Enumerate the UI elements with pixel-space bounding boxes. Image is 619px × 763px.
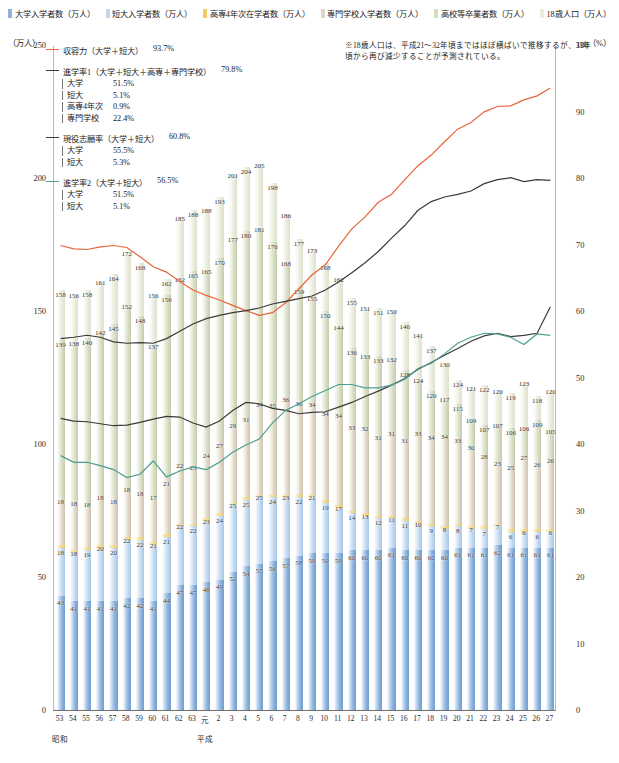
value-label-population: 137	[426, 347, 437, 355]
value-label-junior-college: 17	[335, 505, 342, 513]
value-label-vocational: 31	[375, 434, 382, 442]
value-label-highschool-grads: 148	[135, 317, 146, 325]
value-label-highschool-grads: 133	[373, 357, 384, 365]
value-label-vocational: 18	[110, 498, 117, 506]
key-sublist-current-applicant-rate: 大学55.5%短大5.3%	[46, 145, 296, 168]
x-label-27: 17	[413, 714, 421, 723]
x-label-22: 12	[347, 714, 355, 723]
right-tick-30: 30	[576, 507, 606, 516]
value-label-university: 56	[269, 565, 276, 573]
value-label-population: 119	[506, 394, 516, 402]
value-label-university: 61	[388, 551, 395, 559]
bar-column	[427, 45, 435, 710]
value-label-population: 155	[347, 299, 358, 307]
value-label-university: 62	[494, 549, 501, 557]
key-sub-label: 大学	[67, 189, 113, 201]
value-label-vocational: 25	[507, 464, 514, 472]
value-label-vocational: 33	[348, 424, 355, 432]
x-label-37: 27	[546, 714, 554, 723]
value-label-university: 61	[547, 551, 554, 559]
value-label-vocational: 36	[282, 396, 289, 404]
bar-segment-university	[242, 566, 250, 710]
x-label-9: 62	[175, 714, 183, 723]
value-label-highschool-grads: 159	[294, 288, 305, 296]
key-sublist-advancement-rate-2: 大学51.5%短大5.1%	[46, 189, 296, 212]
x-label-17: 7	[283, 714, 287, 723]
bar-column	[546, 45, 554, 710]
key-subentry: 専門学校22.4%	[46, 113, 296, 125]
legend-label-junior-college-entrants: 短大入学者数（万人）	[112, 7, 192, 19]
x-label-15: 5	[256, 714, 260, 723]
value-label-highschool-grads: 181	[254, 226, 265, 234]
right-tick-10: 10	[576, 640, 606, 649]
x-label-28: 18	[426, 714, 434, 723]
legend-label-university-entrants: 大学入学者数（万人）	[15, 7, 95, 19]
value-label-highschool-grads: 120	[426, 392, 437, 400]
value-label-population: 122	[479, 386, 490, 394]
value-label-junior-college: 7	[482, 530, 486, 538]
legend-swatch-junior-college-entrants	[106, 9, 110, 18]
key-subentry: 短大5.1%	[46, 201, 296, 213]
value-label-vocational: 26	[534, 461, 541, 469]
value-label-population: 168	[135, 264, 146, 272]
key-subentry: 大学51.5%	[46, 189, 296, 201]
x-label-36: 26	[532, 714, 540, 723]
x-label-35: 25	[519, 714, 527, 723]
bar-segment-university	[414, 550, 422, 710]
value-label-junior-college: 14	[348, 514, 355, 522]
right-tick-80: 80	[576, 174, 606, 183]
value-label-highschool-grads: 176	[267, 243, 278, 251]
key-sub-label: 短大	[67, 90, 113, 102]
value-label-university: 43	[57, 599, 64, 607]
value-label-population: 168	[320, 264, 331, 272]
legend-swatch-population-age-18	[540, 9, 544, 18]
x-label-26: 16	[400, 714, 408, 723]
value-label-university: 60	[441, 554, 448, 562]
value-label-university: 61	[467, 551, 474, 559]
bar-column	[493, 45, 501, 710]
value-label-university: 41	[97, 605, 104, 613]
bar-segment-university	[57, 596, 65, 710]
value-label-highschool-grads: 162	[175, 276, 186, 284]
value-label-junior-college: 7	[496, 523, 500, 531]
key-sub-label: 高専4年次	[67, 101, 113, 113]
x-label-1: 54	[69, 714, 77, 723]
value-label-population: 177	[294, 240, 305, 248]
bar-segment-university	[334, 553, 342, 710]
value-label-population: 173	[307, 247, 318, 255]
key-sub-label: 大学	[67, 145, 113, 157]
value-label-university: 48	[203, 586, 210, 594]
bar-segment-university	[387, 548, 395, 710]
value-label-university: 55	[256, 567, 263, 575]
value-label-population: 150	[386, 308, 397, 316]
value-label-vocational: 34	[441, 433, 448, 441]
value-label-highschool-grads: 117	[439, 396, 449, 404]
value-label-vocational: 34	[309, 401, 316, 409]
bar-segment-university	[229, 572, 237, 710]
key-spacer	[46, 124, 296, 132]
key-sub-value: 5.1%	[113, 201, 147, 213]
bar-segment-university	[440, 550, 448, 710]
bar-column	[321, 45, 329, 710]
legend-item-junior-college-entrants: 短大入学者数（万人）	[106, 7, 193, 19]
value-label-highschool-grads: 136	[347, 349, 358, 357]
value-label-population: 156	[69, 292, 80, 300]
key-entry-advancement-rate-2: 進学率2（大学＋短大）56.5%	[46, 176, 296, 188]
key-line-swatch-capacity	[46, 49, 59, 50]
x-axis-labels: 5354555657585960616263元23456789101112131…	[53, 714, 556, 728]
x-label-7: 60	[148, 714, 156, 723]
value-label-vocational: 33	[415, 430, 422, 438]
value-label-junior-college: 20	[110, 549, 117, 557]
bar-segment-university	[454, 548, 462, 710]
value-label-university: 44	[163, 597, 170, 605]
value-label-highschool-grads: 128	[400, 371, 411, 379]
value-label-population: 162	[333, 276, 344, 284]
value-label-vocational: 30	[467, 444, 474, 452]
value-label-junior-college: 11	[401, 522, 408, 530]
value-label-highschool-grads: 152	[122, 303, 133, 311]
value-label-vocational: 34	[428, 434, 435, 442]
bar-segment-university	[321, 553, 329, 710]
value-label-junior-college: 24	[216, 517, 223, 525]
value-label-vocational: 33	[454, 437, 461, 445]
x-label-33: 23	[493, 714, 501, 723]
